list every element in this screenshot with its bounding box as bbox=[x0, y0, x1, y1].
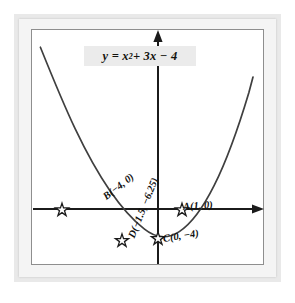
y-axis-arrowhead bbox=[153, 30, 162, 42]
equation-label: y = x2 + 3x − 4 bbox=[84, 46, 196, 66]
x-axis-arrowhead bbox=[252, 204, 264, 213]
equation-text: y = x bbox=[103, 49, 129, 64]
point-label-A: A(1, 0) bbox=[183, 199, 213, 212]
equation-remainder: + 3x − 4 bbox=[133, 49, 177, 64]
figure-page: y = x2 + 3x − 4 A(1, 0) B(−4, 0) C(0, −4… bbox=[0, 0, 295, 303]
marker-point-B bbox=[55, 203, 68, 215]
